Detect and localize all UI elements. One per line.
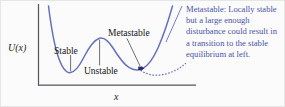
stable-label: Stable — [54, 47, 78, 57]
y-axis-label: U(x) — [8, 43, 26, 53]
ball-marker — [138, 66, 144, 70]
metastable-label: Metastable — [108, 29, 150, 39]
x-axis-label: x — [114, 92, 118, 102]
leader-lines-group — [71, 6, 182, 71]
annotation-leader-line — [166, 6, 182, 42]
metastable-annotation-text: Metastable: Locally stable but a large e… — [186, 4, 282, 60]
unstable-label: Unstable — [84, 67, 118, 77]
potential-curve — [49, 6, 173, 73]
metastable-leader-line — [127, 39, 140, 67]
potential-energy-figure: U(x) x Stable Unstable Metastable Metast… — [0, 0, 285, 107]
